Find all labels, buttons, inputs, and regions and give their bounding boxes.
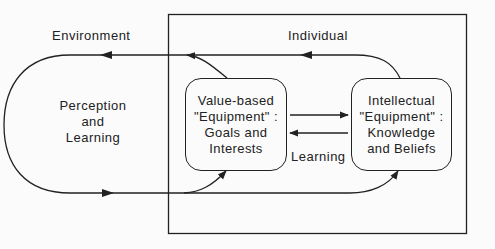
perception-line-2: and (58, 114, 128, 130)
value-box-line-4: Interests (209, 141, 262, 157)
intellectual-box-line-1: Intellectual (368, 93, 435, 109)
intellectual-box-line-4: and Beliefs (367, 141, 436, 157)
value-based-equipment-box: Value-based "Equipment" : Goals and Inte… (185, 78, 287, 171)
value-box-line-2: "Equipment" : (194, 109, 278, 125)
perception-line-1: Perception (58, 98, 128, 114)
intellectual-box-line-2: "Equipment" : (360, 109, 444, 125)
intellectual-equipment-box: Intellectual "Equipment" : Knowledge and… (351, 78, 452, 171)
environment-label: Environment (52, 28, 130, 44)
perception-label: Perception and Learning (58, 98, 128, 146)
value-box-line-1: Value-based (198, 93, 274, 109)
value-box-line-3: Goals and (205, 125, 268, 141)
perception-line-3: Learning (58, 130, 128, 146)
learning-label: Learning (291, 149, 346, 165)
individual-label: Individual (288, 28, 348, 44)
intellectual-box-line-3: Knowledge (368, 125, 436, 141)
